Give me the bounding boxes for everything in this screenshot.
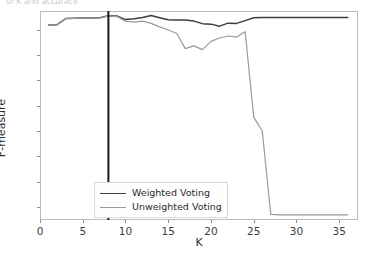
legend-item: Unweighted Voting bbox=[100, 200, 222, 214]
y-axis-label: F-measure bbox=[0, 99, 8, 157]
x-tick-mark bbox=[168, 220, 169, 223]
legend-swatch-weighted bbox=[100, 193, 126, 194]
x-tick-mark bbox=[339, 220, 340, 223]
x-tick-label: 25 bbox=[247, 225, 260, 237]
x-tick-label: 5 bbox=[79, 225, 86, 237]
legend-swatch-unweighted bbox=[100, 207, 126, 208]
cropped-caption-text: of K and accuracy bbox=[6, 0, 186, 5]
chart-figure: of K and accuracy F-measure K 0.20.30.40… bbox=[0, 0, 367, 256]
x-tick-mark bbox=[83, 220, 84, 223]
series-line-weighted-voting bbox=[49, 16, 348, 27]
chart-legend: Weighted Voting Unweighted Voting bbox=[94, 182, 228, 218]
x-axis-label: K bbox=[40, 236, 358, 249]
x-tick-label: 20 bbox=[204, 225, 217, 237]
x-tick-label: 30 bbox=[290, 225, 303, 237]
x-tick-label: 35 bbox=[333, 225, 346, 237]
x-tick-mark bbox=[40, 220, 41, 223]
x-tick-label: 15 bbox=[162, 225, 175, 237]
x-tick-mark bbox=[254, 220, 255, 223]
x-tick-label: 0 bbox=[37, 225, 44, 237]
legend-label-weighted: Weighted Voting bbox=[132, 186, 210, 200]
x-tick-label: 10 bbox=[119, 225, 132, 237]
legend-item: Weighted Voting bbox=[100, 186, 222, 200]
legend-label-unweighted: Unweighted Voting bbox=[132, 200, 222, 214]
x-tick-mark bbox=[125, 220, 126, 223]
x-tick-mark bbox=[296, 220, 297, 223]
x-tick-mark bbox=[211, 220, 212, 223]
